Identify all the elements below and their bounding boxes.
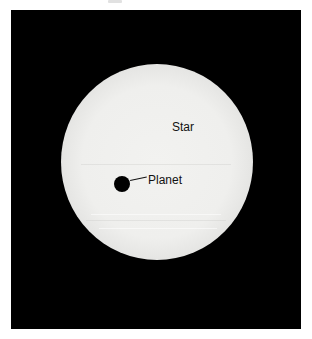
planet-label: Planet: [148, 174, 182, 186]
star-surface-band: [81, 164, 231, 165]
cropped-caption-fragment: [108, 0, 122, 3]
star-surface-band: [99, 228, 217, 229]
image-frame: Star Planet: [11, 10, 301, 329]
planet-disk: [114, 176, 130, 192]
star-label: Star: [172, 121, 194, 133]
star-surface-band: [86, 220, 226, 221]
star-surface-band: [91, 214, 221, 215]
star-disk: [61, 64, 253, 260]
